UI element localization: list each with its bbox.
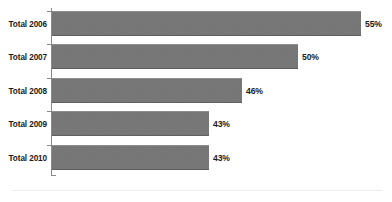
bar-row: Total 2010 43% [0, 145, 392, 170]
bar-value-label: 50% [302, 52, 319, 62]
bar-category-label: Total 2006 [9, 19, 47, 28]
bar-rect[interactable] [52, 111, 209, 136]
bar-row: Total 2008 46% [0, 78, 392, 103]
bar-category-label: Total 2008 [9, 86, 47, 95]
bar-rect[interactable] [52, 145, 209, 170]
axis-foot-tick [51, 175, 56, 176]
bar-value-label: 55% [365, 19, 382, 29]
bar-category-label: Total 2009 [9, 119, 47, 128]
bar-rect[interactable] [52, 44, 298, 69]
bar-category-label: Total 2007 [9, 52, 47, 61]
footer-divider [12, 190, 382, 191]
bar-chart-figure: Total 2006 55% Total 2007 50% Total 2008… [0, 0, 392, 202]
bar-value-label: 43% [213, 119, 230, 129]
bar-row: Total 2007 50% [0, 44, 392, 69]
bar-category-label: Total 2010 [9, 153, 47, 162]
plot-area: Total 2006 55% Total 2007 50% Total 2008… [0, 0, 392, 180]
bar-rect[interactable] [52, 11, 361, 36]
bar-row: Total 2006 55% [0, 11, 392, 36]
bar-row: Total 2009 43% [0, 111, 392, 136]
bar-rect[interactable] [52, 78, 242, 103]
bar-value-label: 43% [213, 153, 230, 163]
bar-value-label: 46% [246, 86, 263, 96]
